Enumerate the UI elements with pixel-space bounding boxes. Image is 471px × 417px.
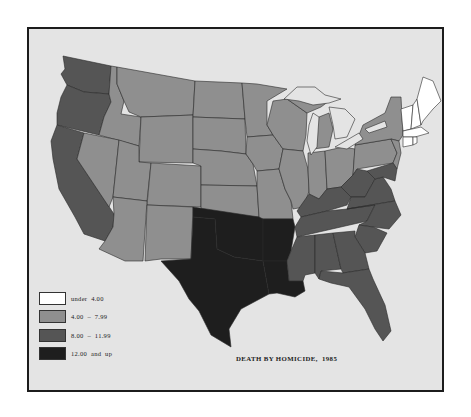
legend-swatch-dark-gray bbox=[39, 329, 66, 342]
legend-swatch-light-gray bbox=[39, 310, 66, 323]
map-frame: under 4.00 4.00 – 7.99 8.00 – 11.99 12.0… bbox=[27, 27, 444, 392]
state-maine bbox=[417, 77, 441, 125]
state-colorado bbox=[147, 163, 201, 207]
legend: under 4.00 4.00 – 7.99 8.00 – 11.99 12.0… bbox=[39, 289, 112, 363]
state-wyoming bbox=[139, 115, 193, 163]
state-connecticut bbox=[403, 137, 413, 147]
map-title: DEATH BY HOMICIDE, 1985 bbox=[236, 355, 337, 362]
legend-label: under 4.00 bbox=[71, 295, 104, 302]
legend-item-8-to-11-99: 8.00 – 11.99 bbox=[39, 326, 112, 345]
state-south-dakota bbox=[193, 117, 246, 154]
state-florida bbox=[319, 269, 391, 341]
legend-item-12-and-up: 12.00 and up bbox=[39, 345, 112, 364]
lake-huron bbox=[329, 107, 355, 139]
state-indiana bbox=[308, 151, 327, 199]
state-rhode-island bbox=[413, 137, 417, 145]
legend-label: 8.00 – 11.99 bbox=[71, 332, 111, 339]
state-new-mexico bbox=[145, 205, 193, 261]
legend-item-4-to-7-99: 4.00 – 7.99 bbox=[39, 308, 112, 327]
state-north-dakota bbox=[193, 81, 245, 119]
legend-label: 4.00 – 7.99 bbox=[71, 313, 107, 320]
legend-swatch-white bbox=[39, 292, 66, 305]
state-montana bbox=[117, 67, 195, 117]
legend-item-under-4: under 4.00 bbox=[39, 289, 112, 308]
legend-label: 12.00 and up bbox=[71, 350, 112, 357]
legend-swatch-black bbox=[39, 347, 66, 360]
